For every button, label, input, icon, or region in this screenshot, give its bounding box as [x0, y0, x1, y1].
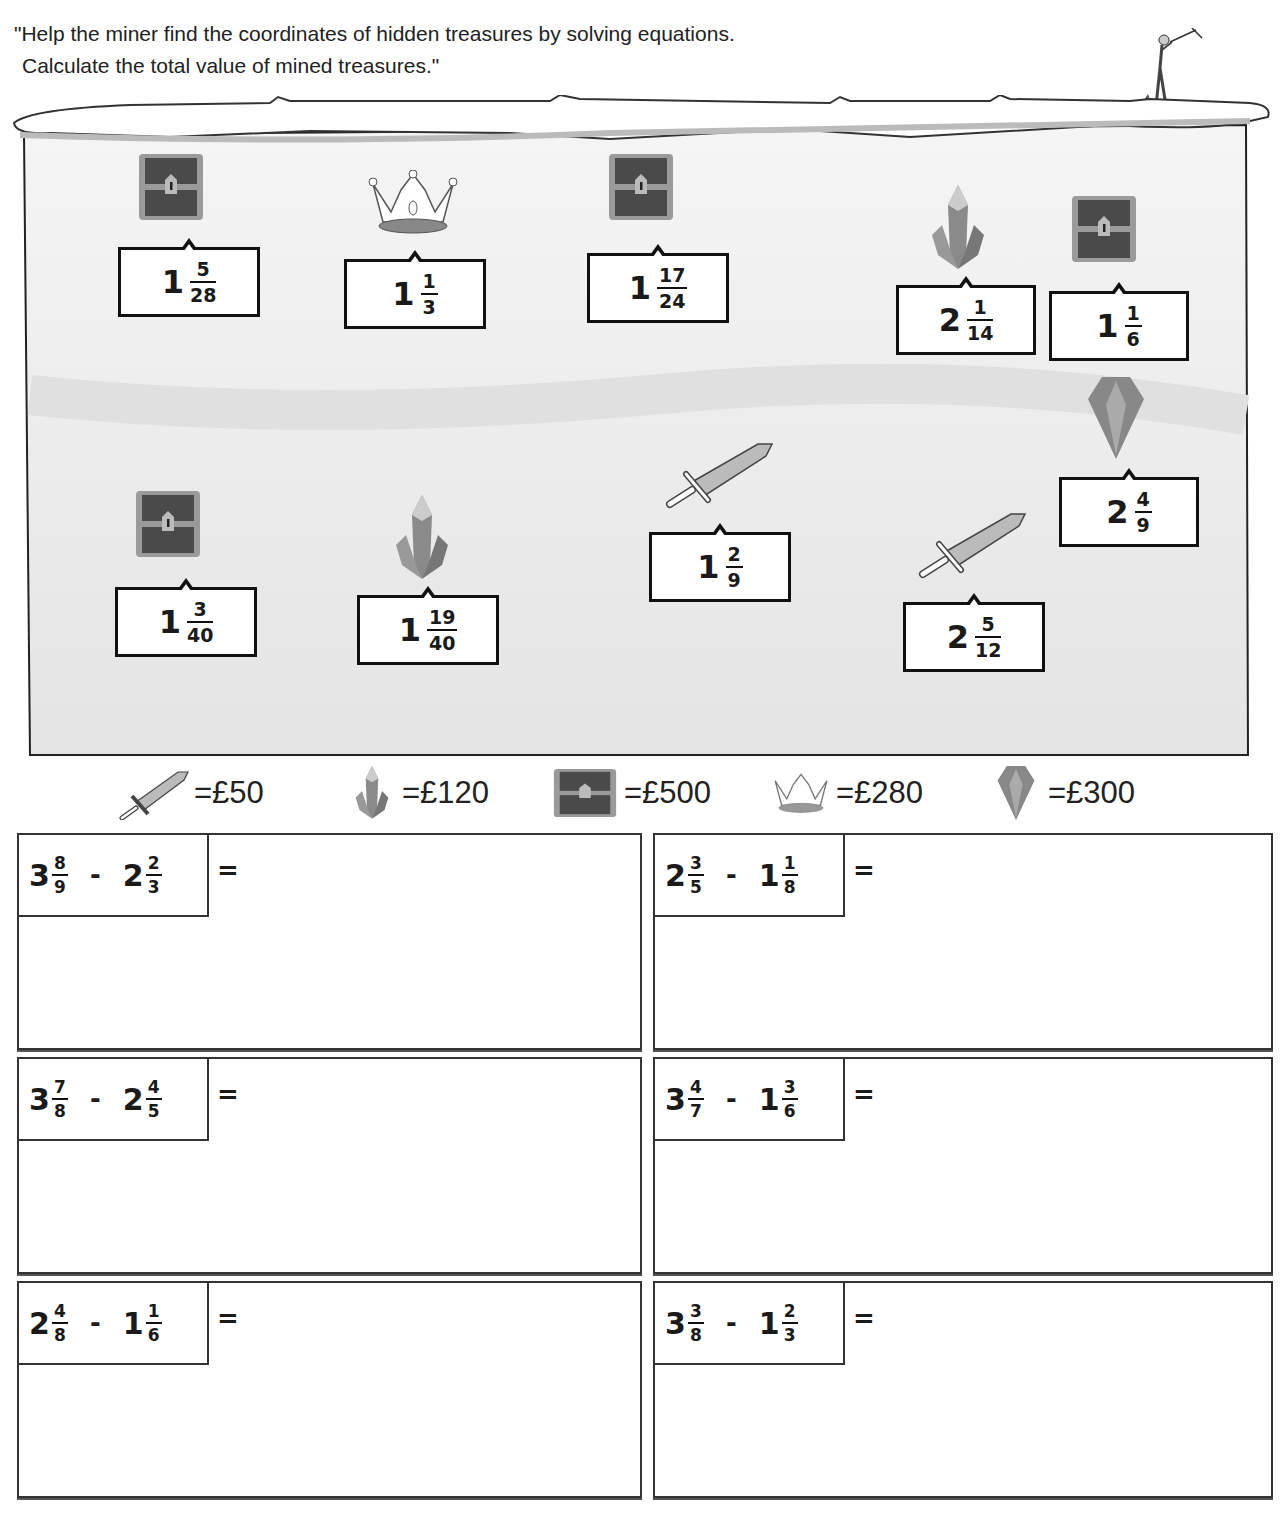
equals-sign: = [217, 855, 239, 885]
sword-icon [662, 440, 778, 512]
equals-sign: = [853, 855, 875, 885]
problem-card-2[interactable]: 235 - 118 = [653, 833, 1273, 1050]
sword-icon [118, 766, 190, 820]
crown-icon [770, 766, 832, 820]
problem-expression: 389 - 223 [19, 835, 209, 917]
equals-sign: = [853, 1303, 875, 1333]
instructions: "Help the miner find the coordinates of … [14, 18, 735, 82]
equals-sign: = [217, 1079, 239, 1109]
legend-item-crystal: =£120 [346, 766, 489, 820]
instructions-line-2: Calculate the total value of mined treas… [14, 50, 735, 82]
treasure-label-7: 129 [649, 532, 791, 602]
problem-card-6[interactable]: 338 - 123 = [653, 1281, 1273, 1498]
diamond-icon [988, 766, 1044, 820]
problem-card-4[interactable]: 347 - 136 = [653, 1057, 1273, 1274]
legend-item-sword: =£50 [118, 766, 264, 820]
equals-sign: = [853, 1079, 875, 1109]
problem-expression: 347 - 136 [655, 1059, 845, 1141]
chest-icon [550, 766, 620, 820]
treasure-label-10: 2512 [903, 602, 1045, 672]
treasure-label-2: 113 [344, 259, 486, 329]
treasure-label-5: 116 [1049, 291, 1189, 361]
legend-value-chest: =£500 [624, 775, 711, 811]
value-legend: =£50 =£120 =£500 =£280 =£300 [0, 766, 1288, 820]
legend-value-crown: =£280 [836, 775, 923, 811]
problem-expression: 235 - 118 [655, 835, 845, 917]
crystal-icon [392, 495, 452, 581]
sword-icon [915, 510, 1031, 582]
treasure-label-1: 1528 [118, 247, 260, 317]
problem-card-3[interactable]: 378 - 245 = [17, 1057, 642, 1274]
legend-value-crystal: =£120 [402, 775, 489, 811]
chest-icon [605, 150, 677, 224]
treasure-label-4: 2114 [896, 285, 1036, 355]
treasure-label-8: 1340 [115, 587, 257, 657]
problem-card-5[interactable]: 248 - 116 = [17, 1281, 642, 1498]
crystal-icon [346, 766, 398, 820]
problem-expression: 338 - 123 [655, 1283, 845, 1365]
crystal-icon [928, 185, 988, 271]
crown-icon [365, 170, 461, 236]
problem-expression: 378 - 245 [19, 1059, 209, 1141]
legend-item-diamond: =£300 [988, 766, 1135, 820]
legend-value-sword: =£50 [194, 775, 264, 811]
problem-card-1[interactable]: 389 - 223 = [17, 833, 642, 1050]
diamond-icon [1088, 377, 1144, 459]
equals-sign: = [217, 1303, 239, 1333]
instructions-line-1: "Help the miner find the coordinates of … [14, 18, 735, 50]
legend-value-diamond: =£300 [1048, 775, 1135, 811]
chest-icon [132, 487, 204, 561]
treasure-label-9: 11940 [357, 595, 499, 665]
treasure-label-3: 11724 [587, 253, 729, 323]
legend-item-chest: =£500 [550, 766, 711, 820]
legend-item-crown: =£280 [770, 766, 923, 820]
treasure-label-6: 249 [1059, 477, 1199, 547]
chest-icon [135, 150, 207, 224]
mine-ground: 1528 113 11724 [10, 95, 1282, 765]
chest-icon [1068, 192, 1140, 266]
problem-expression: 248 - 116 [19, 1283, 209, 1365]
